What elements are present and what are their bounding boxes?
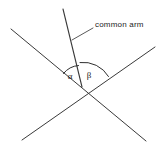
line-upper-left-to-lower-right	[11, 29, 146, 141]
beta-label: β	[87, 70, 92, 80]
beta-angle-arc	[80, 62, 109, 76]
geometry-figure: α β common arm	[0, 0, 162, 150]
alpha-label: α	[68, 71, 73, 81]
diagram-canvas: α β common arm	[0, 0, 162, 150]
common-arm-ray	[63, 9, 82, 87]
common-arm-callout-label: common arm	[95, 20, 144, 29]
line-upper-right-to-lower-left	[22, 47, 155, 140]
callout-leader-line	[72, 28, 93, 40]
